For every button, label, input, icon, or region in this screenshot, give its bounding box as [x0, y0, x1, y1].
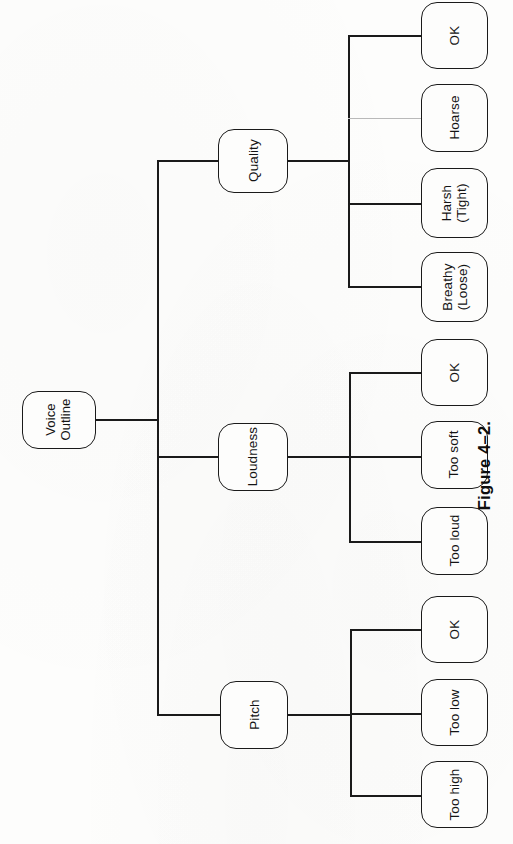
node-loudness-too-soft-label: Too soft — [447, 431, 462, 479]
node-loudness-label: Loudness — [245, 427, 260, 486]
connector-spine-to-quality — [157, 160, 219, 162]
node-quality[interactable]: Quality — [218, 129, 288, 193]
connector-loudness-to-ok — [349, 372, 421, 374]
connector-quality-to-ok — [348, 35, 421, 37]
node-loudness[interactable]: Loudness — [218, 423, 288, 491]
connector-quality-to-hoarse — [348, 118, 421, 119]
node-loudness-too-loud-label: Too loud — [447, 515, 462, 567]
connector-spine-to-pitch — [157, 714, 220, 716]
connector-quality-to-breathy — [348, 286, 421, 288]
node-voice-outline[interactable]: Voice Outline — [22, 391, 96, 449]
node-quality-ok[interactable]: OK — [421, 2, 488, 69]
connector-loudness-to-too-loud — [349, 541, 421, 543]
node-voice-outline-label: Voice Outline — [44, 399, 73, 441]
node-quality-hoarse-label: Hoarse — [447, 96, 462, 140]
connector-pitch-to-too-low — [350, 713, 421, 715]
node-quality-hoarse[interactable]: Hoarse — [421, 84, 488, 152]
node-pitch-too-low[interactable]: Too low — [421, 679, 488, 746]
connector-quality-spine — [348, 35, 350, 287]
connector-root-to-spine — [95, 419, 159, 421]
node-pitch[interactable]: Pitch — [220, 681, 288, 749]
node-pitch-ok-label: OK — [447, 620, 462, 640]
connector-loudness-stem — [288, 456, 351, 458]
figure-page: Voice Outline Quality Loudness Pitch OK … — [0, 0, 513, 844]
node-pitch-too-high-label: Too high — [447, 769, 462, 821]
figure-caption: Figure 4–2. — [466, 412, 504, 518]
node-loudness-ok-label: OK — [447, 363, 462, 383]
figure-caption-text: Figure 4–2. — [476, 420, 495, 509]
connector-pitch-to-too-high — [350, 795, 421, 797]
node-quality-label: Quality — [245, 140, 260, 183]
connector-quality-to-harsh — [348, 203, 421, 205]
connector-spine-to-loudness — [157, 456, 219, 458]
connector-main-spine — [157, 160, 159, 716]
node-quality-harsh-tight-label: Harsh (Tight) — [439, 183, 469, 222]
node-pitch-ok[interactable]: OK — [421, 596, 488, 663]
node-pitch-too-low-label: Too low — [447, 689, 462, 735]
connector-pitch-to-ok — [350, 629, 421, 631]
node-quality-breathy-loose[interactable]: Breathy (Loose) — [421, 252, 488, 322]
node-quality-breathy-loose-label: Breathy (Loose) — [439, 263, 469, 310]
connector-pitch-stem — [288, 714, 352, 716]
node-quality-ok-label: OK — [447, 26, 462, 46]
node-pitch-too-high[interactable]: Too high — [421, 761, 488, 828]
node-pitch-label: Pitch — [246, 700, 261, 731]
connector-loudness-to-too-soft — [349, 456, 421, 458]
connector-quality-stem — [288, 160, 350, 162]
node-quality-harsh-tight[interactable]: Harsh (Tight) — [421, 168, 488, 238]
node-loudness-ok[interactable]: OK — [421, 339, 488, 406]
